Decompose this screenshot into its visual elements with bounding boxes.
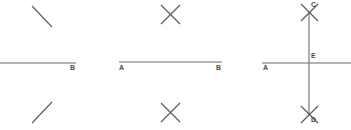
panel-2-cross-above [161, 5, 180, 24]
panel-1-arc-below [32, 102, 52, 123]
panel-2-cross-below [161, 103, 180, 122]
panel-2-group [119, 5, 222, 122]
label-panel3-d: D [311, 116, 316, 123]
geometry-figure: B A B A C E D [0, 0, 351, 130]
panel-1-group [0, 6, 76, 123]
panel-1-arc-above [32, 6, 52, 27]
label-panel2-b: B [216, 64, 221, 71]
label-panel3-e: E [311, 52, 316, 59]
label-panel1-b: B [70, 64, 75, 71]
construction-canvas [0, 0, 351, 130]
label-panel3-a: A [263, 64, 268, 71]
panel-3-group [262, 4, 351, 123]
label-panel3-c: C [311, 1, 316, 8]
label-panel2-a: A [119, 64, 124, 71]
